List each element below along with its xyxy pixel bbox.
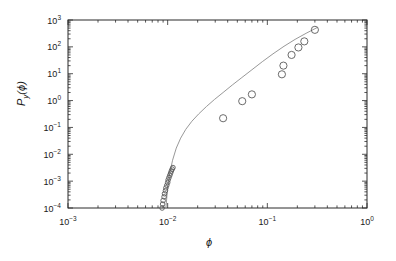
svg-text:102: 102	[47, 40, 61, 52]
log-log-plot: 10−310−210−110010310210110010−110−210−31…	[0, 0, 396, 261]
y-axis-label-sub: y	[21, 95, 30, 99]
y-axis-label-base: P	[15, 99, 27, 106]
svg-text:10−4: 10−4	[44, 202, 62, 214]
y-axis-label: Py(ϕ)	[15, 81, 30, 106]
figure-container: 10−310−210−110010310210110010−110−210−31…	[0, 0, 396, 261]
data-point-markers	[160, 26, 319, 210]
svg-text:10−2: 10−2	[44, 148, 62, 160]
tick-marks	[68, 20, 367, 208]
svg-text:103: 103	[47, 14, 61, 26]
y-axis-label-arg: (ϕ)	[15, 81, 27, 94]
svg-text:100: 100	[47, 94, 61, 106]
svg-text:10−3: 10−3	[44, 175, 62, 187]
tick-labels: 10−310−210−110010310210110010−110−210−31…	[44, 14, 375, 228]
svg-text:10−1: 10−1	[259, 215, 277, 227]
svg-text:100: 100	[360, 215, 374, 227]
svg-text:10−1: 10−1	[44, 121, 62, 133]
plot-frame	[68, 20, 367, 208]
x-axis-label: ϕ	[206, 236, 212, 248]
svg-text:10−2: 10−2	[159, 215, 177, 227]
svg-text:10−3: 10−3	[59, 215, 77, 227]
svg-text:101: 101	[47, 67, 61, 79]
model-fit-curve	[166, 28, 317, 208]
